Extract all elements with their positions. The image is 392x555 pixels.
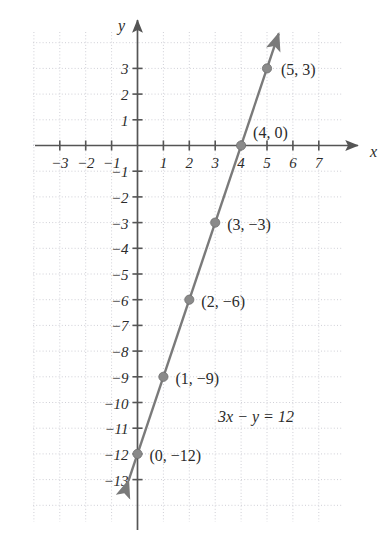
x-tick-label: 3	[210, 155, 219, 171]
y-tick-label: −12	[103, 447, 129, 463]
x-tick-label: 7	[315, 155, 324, 171]
data-point-labels: (5, 3)(4, 0)(3, −3)(2, −6)(1, −9)(0, −12…	[150, 61, 316, 465]
y-tick-label: −7	[111, 318, 130, 334]
y-tick-label: −1	[111, 164, 129, 180]
x-tick-label: −3	[51, 155, 69, 171]
x-tick-label: 5	[263, 155, 271, 171]
y-tick-label: −13	[103, 473, 128, 489]
y-tick-label: −10	[103, 396, 129, 412]
y-tick-label: −8	[111, 344, 129, 360]
data-point-marker	[185, 295, 194, 304]
data-point-marker	[159, 372, 168, 381]
data-point-label: (5, 3)	[281, 61, 316, 79]
data-point-marker	[262, 64, 271, 73]
x-tick-label: 2	[186, 155, 194, 171]
y-tick-label: −4	[111, 241, 129, 257]
y-tick-label: −3	[111, 216, 129, 232]
x-axis-label: x	[369, 143, 377, 160]
data-point-label: (0, −12)	[150, 447, 202, 465]
y-axis-label: y	[116, 17, 126, 35]
data-point-marker	[237, 141, 246, 150]
y-tick-label: 1	[121, 113, 129, 129]
coordinate-plane: −3−2−11234567321−1−2−3−4−5−6−7−8−9−10−11…	[0, 0, 392, 555]
x-tick-label: 6	[289, 155, 297, 171]
graph-figure: −3−2−11234567321−1−2−3−4−5−6−7−8−9−10−11…	[0, 0, 392, 555]
x-tick-label: 1	[160, 155, 168, 171]
y-tick-label: 2	[121, 87, 129, 103]
y-tick-label: −2	[111, 190, 129, 206]
data-point-label: (4, 0)	[253, 124, 288, 142]
data-point-marker	[211, 218, 220, 227]
x-tick-label: −2	[77, 155, 95, 171]
equation-annotation: 3x − y = 12	[217, 408, 294, 426]
x-tick-label: 4	[237, 155, 245, 171]
y-tick-label: −6	[111, 293, 129, 309]
y-tick-label: 3	[120, 61, 129, 77]
y-tick-label: −9	[111, 370, 129, 386]
y-tick-label: −5	[111, 267, 129, 283]
y-tick-label: −11	[104, 421, 128, 437]
data-point-label: (2, −6)	[201, 293, 245, 311]
data-point-label: (1, −9)	[175, 370, 219, 388]
data-point-marker	[133, 449, 142, 458]
data-point-label: (3, −3)	[227, 216, 271, 234]
